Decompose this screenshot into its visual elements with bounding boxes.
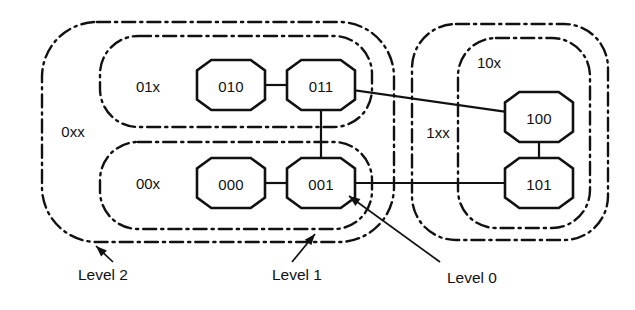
node-101[interactable]: 101 [505,158,573,208]
annotation-level-2: Level 2 [78,246,128,283]
edge-011-100 [353,90,507,112]
node-label-101: 101 [526,176,552,193]
region-label-1xx: 1xx [426,124,450,141]
annotation-label-level-0: Level 0 [447,269,497,286]
region-label-01x: 01x [136,78,161,95]
node-011[interactable]: 011 [287,60,355,110]
diagram-canvas: 0xx01x00x1xx10x 010011000001100101 Level… [0,0,635,310]
node-100[interactable]: 100 [505,92,573,142]
node-010[interactable]: 010 [197,60,265,110]
region-label-10x: 10x [477,54,502,71]
node-label-100: 100 [526,110,552,127]
annotation-label-level-2: Level 2 [78,266,128,283]
region-label-00x: 00x [136,175,161,192]
annotations-layer: Level 2Level 1Level 0 [78,196,497,286]
node-001[interactable]: 001 [287,158,355,208]
node-label-001: 001 [308,176,334,193]
node-label-000: 000 [218,176,244,193]
annotation-label-level-1: Level 1 [272,266,322,283]
node-000[interactable]: 000 [197,158,265,208]
node-label-010: 010 [218,78,244,95]
nodes-layer: 010011000001100101 [197,60,573,208]
hypercube-level-diagram: 0xx01x00x1xx10x 010011000001100101 Level… [0,0,635,310]
node-label-011: 011 [309,78,334,95]
region-label-0xx: 0xx [61,123,85,140]
